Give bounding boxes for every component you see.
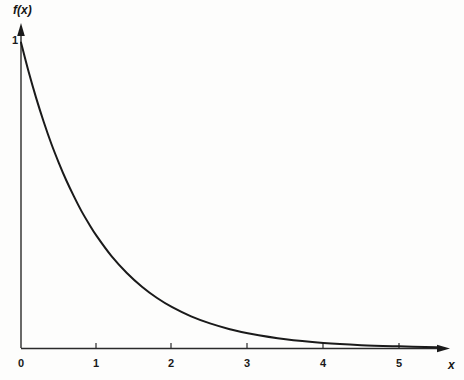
y-axis-arrowhead [17,23,25,36]
y-axis [17,23,25,348]
x-tick-label-0: 0 [13,357,29,369]
x-tick-label-4: 4 [315,357,331,369]
plot-area [0,0,464,380]
x-tick-label-2: 2 [163,357,179,369]
decay-curve [21,43,437,348]
x-tick-label-5: 5 [391,357,407,369]
chart-figure: f(x) x 1 0 1 2 3 4 5 [0,0,464,380]
y-tick-label-1: 1 [8,34,18,46]
x-tick-label-1: 1 [88,357,104,369]
x-axis-arrowhead [437,345,450,353]
y-axis-title: f(x) [13,3,32,17]
x-axis-title: x [448,358,455,372]
x-tick-label-3: 3 [239,357,255,369]
